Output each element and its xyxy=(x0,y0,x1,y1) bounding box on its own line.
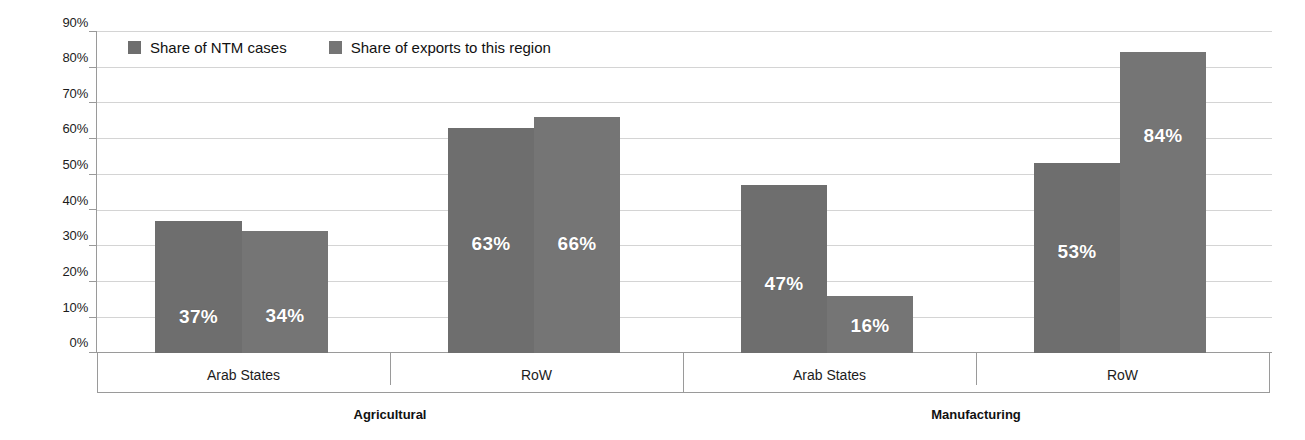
y-tick-mark-60 xyxy=(89,138,97,139)
bar-value-label: 63% xyxy=(448,233,534,255)
bar-manufacturing-arabstates-exports[interactable]: 16% xyxy=(827,296,913,353)
cat-label-agricultural-row: RoW xyxy=(390,368,683,382)
legend-label: Share of exports to this region xyxy=(351,40,551,55)
y-tick-label-60: 60% xyxy=(34,122,88,135)
legend-item-ntm-cases[interactable]: Share of NTM cases xyxy=(128,40,287,55)
bar-agricultural-row-exports[interactable]: 66% xyxy=(534,117,620,353)
y-tick-mark-40 xyxy=(89,209,97,210)
y-tick-label-70: 70% xyxy=(34,87,88,100)
y-tick-label-80: 80% xyxy=(34,51,88,64)
y-tick-mark-50 xyxy=(89,174,97,175)
y-tick-mark-70 xyxy=(89,102,97,103)
legend-swatch-icon xyxy=(329,41,342,54)
group-label-manufacturing: Manufacturing xyxy=(683,408,1269,421)
y-tick-label-20: 20% xyxy=(34,265,88,278)
bar-agricultural-row-ntm[interactable]: 63% xyxy=(448,128,534,353)
legend-item-exports[interactable]: Share of exports to this region xyxy=(329,40,551,55)
bar-value-label: 53% xyxy=(1034,241,1120,263)
cat-label-manufacturing-arabstates: Arab States xyxy=(683,368,976,382)
gridline-80 xyxy=(97,67,1272,68)
y-tick-label-40: 40% xyxy=(34,194,88,207)
y-tick-label-0: 0% xyxy=(34,336,88,349)
y-tick-mark-10 xyxy=(89,317,97,318)
cat-separator-right xyxy=(1269,353,1270,393)
y-tick-label-10: 10% xyxy=(34,301,88,314)
y-tick-mark-90 xyxy=(89,31,97,32)
bar-chart: 90% 80% 70% 60% 50% 40% 30% 20% 10% 0% 3… xyxy=(0,0,1305,440)
y-axis-labels: 90% 80% 70% 60% 50% 40% 30% 20% 10% 0% xyxy=(34,21,88,362)
y-tick-mark-20 xyxy=(89,281,97,282)
cat-band-bottom-rule xyxy=(97,392,1270,393)
bar-value-label: 37% xyxy=(155,306,242,328)
gridline-60 xyxy=(97,138,1272,139)
y-tick-mark-0 xyxy=(89,352,97,353)
bar-value-label: 66% xyxy=(534,233,620,255)
y-tick-mark-80 xyxy=(89,67,97,68)
cat-label-agricultural-arabstates: Arab States xyxy=(97,368,390,382)
y-tick-label-30: 30% xyxy=(34,229,88,242)
y-tick-mark-30 xyxy=(89,245,97,246)
legend: Share of NTM cases Share of exports to t… xyxy=(128,40,551,55)
bar-value-label: 34% xyxy=(242,305,328,327)
gridline-90 xyxy=(97,31,1272,32)
y-tick-label-90: 90% xyxy=(34,16,88,29)
cat-label-manufacturing-row: RoW xyxy=(976,368,1269,382)
bar-manufacturing-row-exports[interactable]: 84% xyxy=(1120,52,1206,353)
bar-agricultural-arabstates-ntm[interactable]: 37% xyxy=(155,221,242,353)
plot-area: 37% 34% 63% 66% 47% 16% 53% 84% xyxy=(97,31,1272,353)
legend-swatch-icon xyxy=(128,41,141,54)
group-label-agricultural: Agricultural xyxy=(97,408,683,421)
gridline-70 xyxy=(97,102,1272,103)
bar-agricultural-arabstates-exports[interactable]: 34% xyxy=(242,231,328,353)
legend-label: Share of NTM cases xyxy=(150,40,287,55)
bar-value-label: 47% xyxy=(741,273,827,295)
bar-manufacturing-arabstates-ntm[interactable]: 47% xyxy=(741,185,827,353)
bar-value-label: 16% xyxy=(827,315,913,337)
bar-manufacturing-row-ntm[interactable]: 53% xyxy=(1034,163,1120,353)
category-axis: Arab States RoW Arab States RoW Agricult… xyxy=(97,353,1272,431)
y-tick-label-50: 50% xyxy=(34,158,88,171)
bar-value-label: 84% xyxy=(1120,125,1206,147)
